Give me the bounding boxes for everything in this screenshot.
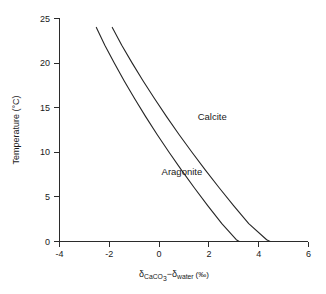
y-tick-label: 0: [45, 237, 50, 247]
y-tick-label: 20: [40, 58, 50, 68]
temperature-isotope-chart: 0 5 10 15 20 25 -4 -2 0 2 4 6 Temperatur…: [0, 0, 326, 294]
x-tick-label: 6: [306, 249, 311, 259]
x-tick-label: -4: [55, 249, 63, 259]
y-tick-label: 5: [45, 192, 50, 202]
aragonite-label: Aragonite: [162, 166, 203, 177]
chart-figure: 0 5 10 15 20 25 -4 -2 0 2 4 6 Temperatur…: [0, 0, 326, 294]
x-tick-label: 2: [206, 249, 211, 259]
calcite-label: Calcite: [198, 111, 227, 122]
x-axis-title-sub2: water: [176, 273, 194, 280]
y-tick-label: 10: [40, 147, 50, 157]
y-axis-title: Temperature (°C): [11, 95, 21, 164]
x-tick-label: 0: [157, 249, 162, 259]
y-tick-label: 25: [40, 14, 50, 24]
y-tick-label: 15: [40, 103, 50, 113]
x-axis-title-unit: (‰): [196, 270, 210, 279]
x-tick-label: 4: [256, 249, 261, 259]
x-axis-title-sub1: CaCO: [144, 273, 163, 280]
x-tick-label: -2: [105, 249, 113, 259]
